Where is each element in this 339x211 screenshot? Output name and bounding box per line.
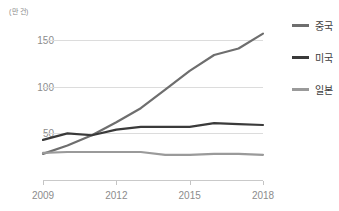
legend-item-일본[interactable]: 일본	[292, 82, 333, 97]
x-tick-mark-2009	[43, 181, 44, 185]
legend-label: 중국	[315, 18, 333, 33]
plot-area	[43, 28, 263, 180]
legend-swatch-icon	[292, 56, 309, 59]
series-line-중국	[43, 34, 263, 154]
legend-item-중국[interactable]: 중국	[292, 18, 333, 33]
x-tick-mark-2015	[190, 181, 191, 185]
series-lines	[43, 28, 263, 180]
line-chart: (만 건) 50100150 2009201220152018 중국미국일본	[0, 0, 339, 211]
series-line-미국	[43, 123, 263, 140]
x-axis-line	[43, 180, 263, 181]
x-tick-2018: 2018	[241, 190, 285, 201]
x-tick-mark-2012	[116, 181, 117, 185]
x-tick-mark-2018	[263, 181, 264, 185]
series-line-일본	[43, 152, 263, 155]
legend-item-미국[interactable]: 미국	[292, 50, 333, 65]
legend: 중국미국일본	[292, 18, 333, 97]
legend-swatch-icon	[292, 24, 309, 27]
legend-label: 일본	[315, 82, 333, 97]
y-axis-unit-label: (만 건)	[9, 6, 29, 16]
x-tick-2015: 2015	[168, 190, 212, 201]
legend-label: 미국	[315, 50, 333, 65]
x-tick-2009: 2009	[21, 190, 65, 201]
x-tick-2012: 2012	[94, 190, 138, 201]
legend-swatch-icon	[292, 88, 309, 91]
